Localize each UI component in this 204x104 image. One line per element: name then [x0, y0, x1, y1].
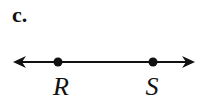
point-s	[149, 58, 158, 67]
point-r-label: R	[53, 74, 69, 100]
point-r	[54, 58, 63, 67]
line-diagram	[0, 0, 204, 104]
point-s-label: S	[146, 74, 159, 100]
